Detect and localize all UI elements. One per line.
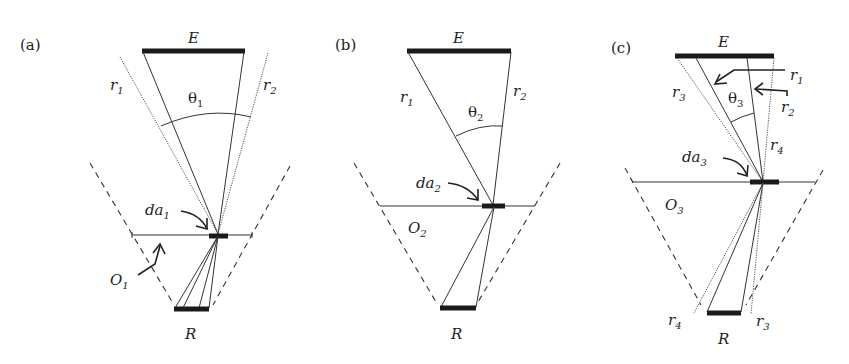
panel-c-ray-r2-label: r2	[781, 98, 795, 118]
panel-c-plane-label: O3	[665, 196, 684, 216]
panel-b-tag: (b)	[335, 36, 356, 54]
panel-a-emitter-label: E	[187, 29, 199, 47]
panel-a-angle-label: θ1	[188, 89, 203, 109]
panel-b-ray-r2-label: r2	[513, 82, 527, 102]
panel-a-rx-ray-1	[175, 236, 218, 308]
panel-b-angle-arc	[456, 126, 503, 136]
panel-a-tag: (a)	[20, 36, 41, 54]
panel-c-emitter-label: E	[717, 33, 729, 51]
panel-c-ray-r4-upper	[763, 58, 774, 182]
panel-c-ray-r2	[747, 58, 763, 182]
panel-b-area-label: da2	[416, 174, 441, 194]
panel-a-area-label: da1	[145, 201, 170, 221]
panel-a-rx-ray-4	[209, 236, 218, 308]
panel-b-angle-label: θ2	[468, 103, 483, 123]
panel-b-rx-ray-2	[476, 207, 494, 307]
panel-c-ray-r4-label-lower: r4	[668, 311, 682, 331]
panel-c-angle-arc	[731, 113, 754, 122]
panel-c-area-label: da3	[682, 148, 707, 168]
panel-b-rx-ray-1	[441, 207, 494, 307]
panel-a-rx-ray-3	[199, 236, 218, 308]
panel-c-r1-callout	[716, 70, 785, 82]
panel-b-emitter-label: E	[452, 29, 464, 47]
panel-c-rx-ray-1	[707, 183, 763, 312]
panel-b-receiver-label: R	[450, 325, 462, 343]
panel-a-angle-arc	[161, 113, 251, 126]
panel-c-cone-right	[746, 170, 823, 305]
panel-c-ray-r3-label-lower: r3	[756, 312, 770, 332]
panel-c-area-arrow	[723, 158, 747, 176]
panel-c-ray-r3-label: r3	[672, 83, 686, 103]
panel-c-ray-r4-label-upper: r4	[770, 136, 784, 156]
panel-b-area-arrow	[448, 183, 478, 200]
panel-c-cone-left	[625, 168, 701, 305]
panel-a-plane-label: O1	[110, 271, 129, 291]
panel-a-receiver-label: R	[184, 325, 196, 343]
diagram-canvas: (a) E r1 r2 θ1 R da1 O1	[0, 0, 849, 364]
panel-a-ray-r1	[120, 57, 218, 234]
panel-b-ray-r1-label: r1	[400, 88, 414, 108]
figure: (a) E r1 r2 θ1 R da1 O1	[0, 0, 849, 364]
panel-a-area-arrow	[181, 211, 207, 229]
panel-c: (c) E θ3 r3 r1 r2 r4 O3 r4 r3	[611, 33, 823, 348]
panel-c-receiver-label: R	[717, 330, 729, 348]
panel-b-plane-label: O2	[408, 219, 427, 239]
panel-b-ray-r2	[493, 52, 511, 205]
panel-a: (a) E r1 r2 θ1 R da1 O1	[20, 29, 290, 343]
panel-c-ray-r1-label: r1	[790, 66, 804, 86]
panel-c-angle-label: θ3	[728, 89, 743, 109]
panel-a-ray-r1-label: r1	[110, 76, 124, 96]
panel-c-tag: (c)	[611, 39, 631, 57]
panel-a-ray-r2	[218, 53, 268, 234]
panel-b: (b) E r1 r2 θ2 R da2 O2	[335, 29, 560, 343]
panel-a-rx-ray-2	[183, 236, 218, 308]
panel-b-cone-right	[478, 163, 560, 302]
panel-c-rx-ray-2	[741, 183, 763, 312]
panel-a-ray-r2-label: r2	[263, 76, 277, 96]
panel-a-right-edge	[218, 52, 244, 234]
